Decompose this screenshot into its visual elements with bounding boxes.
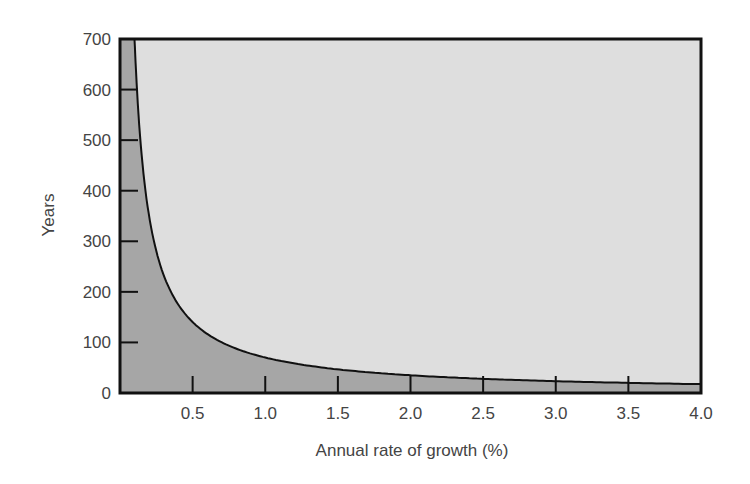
y-axis-tick-labels: 0100200300400500600700 — [83, 30, 111, 403]
x-tick-label: 2.5 — [471, 404, 495, 423]
y-tick-label: 400 — [83, 182, 111, 201]
y-tick-label: 600 — [83, 81, 111, 100]
x-tick-label: 3.5 — [617, 404, 641, 423]
y-tick-label: 300 — [83, 232, 111, 251]
x-axis-tick-labels: 0.51.01.52.02.53.03.54.0 — [181, 404, 713, 423]
x-tick-label: 1.5 — [326, 404, 350, 423]
x-tick-label: 1.0 — [253, 404, 277, 423]
x-tick-label: 0.5 — [181, 404, 205, 423]
chart: 0.51.01.52.02.53.03.54.0 010020030040050… — [0, 0, 750, 484]
x-axis-title: Annual rate of growth (%) — [316, 441, 509, 460]
y-tick-label: 200 — [83, 283, 111, 302]
y-axis-title: Years — [39, 194, 58, 237]
y-tick-label: 700 — [83, 30, 111, 49]
y-tick-label: 500 — [83, 131, 111, 150]
x-tick-label: 3.0 — [544, 404, 568, 423]
y-tick-label: 0 — [102, 384, 111, 403]
x-tick-label: 2.0 — [399, 404, 423, 423]
y-tick-label: 100 — [83, 333, 111, 352]
x-tick-label: 4.0 — [689, 404, 713, 423]
